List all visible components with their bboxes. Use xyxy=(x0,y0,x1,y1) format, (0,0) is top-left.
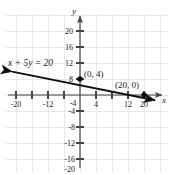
equation-label: x + 5y = 20 xyxy=(7,58,53,68)
graph-figure: -20 -12 -4 4 12 20 20 16 12 8 -4 -8 -12 … xyxy=(0,0,172,175)
x-tick-label-20: 20 xyxy=(140,100,148,109)
x-tick-label-4: 4 xyxy=(94,100,98,109)
coordinate-plane-svg: -20 -12 -4 4 12 20 20 16 12 8 -4 -8 -12 … xyxy=(0,0,172,175)
x-tick-label-neg12: -12 xyxy=(43,100,54,109)
y-tick-label-20: 20 xyxy=(65,27,73,36)
figure-background xyxy=(0,0,172,175)
y-tick-label-16: 16 xyxy=(65,43,73,52)
x-tick-label-neg20: -20 xyxy=(11,100,22,109)
y-tick-label-neg20: -20 xyxy=(64,165,75,174)
y-axis-label: y xyxy=(71,6,76,16)
y-tick-label-neg8: -8 xyxy=(68,123,75,132)
y-tick-label-8: 8 xyxy=(69,75,73,84)
y-tick-label-neg16: -16 xyxy=(64,155,75,164)
y-tick-label-12: 12 xyxy=(65,59,73,68)
x-axis-label: x xyxy=(161,95,166,105)
point-label-y-intercept: (0, 4) xyxy=(84,69,104,79)
y-tick-label-neg12: -12 xyxy=(64,139,75,148)
y-tick-label-neg4: -4 xyxy=(68,107,75,116)
point-y-intercept xyxy=(77,76,82,81)
point-x-intercept xyxy=(141,92,146,97)
point-label-x-intercept: (20, 0) xyxy=(115,80,139,90)
x-tick-label-12: 12 xyxy=(124,100,132,109)
